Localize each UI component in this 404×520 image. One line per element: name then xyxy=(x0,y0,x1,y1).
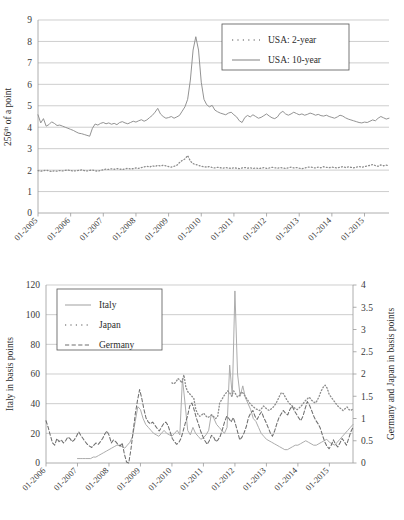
legend-label-japan: Japan xyxy=(99,320,121,330)
x-tick-label: 01-2015 xyxy=(303,465,330,492)
x-tick-label: 01-2010 xyxy=(146,465,173,492)
x-tick-label: 01-2013 xyxy=(240,465,267,492)
x-tick-label: 01-2006 xyxy=(45,215,73,243)
y-tick-label-left: 120 xyxy=(26,280,41,290)
svg-text:256th of a point: 256th of a point xyxy=(2,88,13,147)
y-tick-label: 4 xyxy=(27,123,32,133)
y-tick-label: 6 xyxy=(27,80,32,90)
y-tick-label-right: 2 xyxy=(361,369,366,379)
y-tick-label: 2 xyxy=(27,166,32,176)
legend-label-italy: Italy xyxy=(99,300,117,310)
y-tick-label-right: 0.5 xyxy=(361,436,373,446)
y-tick-label: 5 xyxy=(27,101,32,111)
x-tick-label: 01-2008 xyxy=(83,465,110,492)
x-tick-label: 01-2012 xyxy=(209,465,236,492)
chart-usa-yields: 012345678901-200501-200601-200701-200801… xyxy=(0,0,404,260)
y-axis-title-left: Italy in basis points xyxy=(5,337,15,411)
x-tick-label: 01-2006 xyxy=(20,465,48,493)
x-tick-label: 01-2010 xyxy=(175,215,202,242)
y-tick-label-left: 80 xyxy=(31,340,41,350)
y-axis-title-right: Germany and Japan in basis points xyxy=(386,308,396,440)
x-tick-label: 01-2007 xyxy=(52,465,80,493)
chart-italy-japan-germany: 02040608010012000.511.522.533.5401-20060… xyxy=(0,260,404,520)
x-tick-label: 01-2005 xyxy=(12,215,39,242)
bottom-chart-svg: 02040608010012000.511.522.533.5401-20060… xyxy=(0,260,404,520)
x-tick-label: 01-2008 xyxy=(110,215,137,242)
top-chart-svg: 012345678901-200501-200601-200701-200801… xyxy=(0,0,404,260)
y-tick-label-right: 3.5 xyxy=(361,303,373,313)
y-tick-label-left: 60 xyxy=(31,369,41,379)
y-tick-label-left: 20 xyxy=(31,429,41,439)
y-tick-label: 7 xyxy=(27,58,32,68)
legend-label-usa-2-year: USA: 2-year xyxy=(268,35,317,45)
y-tick-label-left: 40 xyxy=(31,399,41,409)
y-tick-label-right: 0 xyxy=(361,458,366,468)
x-tick-label: 01-2014 xyxy=(306,215,334,243)
y-tick-label-left: 100 xyxy=(26,310,41,320)
x-tick-label: 01-2012 xyxy=(241,215,268,242)
y-tick-label: 8 xyxy=(27,37,32,47)
y-axis-title: 256th of a point xyxy=(2,88,13,147)
legend-label-germany: Germany xyxy=(99,340,135,350)
y-tick-label-right: 3 xyxy=(361,325,366,335)
y-tick-label: 1 xyxy=(27,187,32,197)
series-line-usa-2-year xyxy=(38,156,389,172)
x-tick-label: 01-2009 xyxy=(115,465,142,492)
svg-text:Italy in basis points: Italy in basis points xyxy=(5,337,15,411)
x-tick-label: 01-2014 xyxy=(272,465,300,493)
svg-text:Germany and Japan in basis poi: Germany and Japan in basis points xyxy=(386,308,396,440)
x-tick-label: 01-2013 xyxy=(273,215,300,242)
x-tick-label: 01-2011 xyxy=(208,215,235,242)
x-tick-label: 01-2007 xyxy=(77,215,105,243)
series-line-japan xyxy=(172,375,353,419)
x-tick-label: 01-2015 xyxy=(339,215,366,242)
y-tick-label: 9 xyxy=(27,15,32,25)
x-tick-label: 01-2009 xyxy=(143,215,170,242)
y-tick-label: 3 xyxy=(27,144,32,154)
y-tick-label-right: 1 xyxy=(361,414,366,424)
series-line-germany xyxy=(46,390,353,463)
x-tick-label: 01-2011 xyxy=(178,465,205,492)
y-tick-label-right: 2.5 xyxy=(361,347,373,357)
legend-label-usa-10-year: USA: 10-year xyxy=(268,55,322,65)
figure-page: 012345678901-200501-200601-200701-200801… xyxy=(0,0,404,520)
y-tick-label-right: 4 xyxy=(361,280,366,290)
y-tick-label-right: 1.5 xyxy=(361,392,373,402)
